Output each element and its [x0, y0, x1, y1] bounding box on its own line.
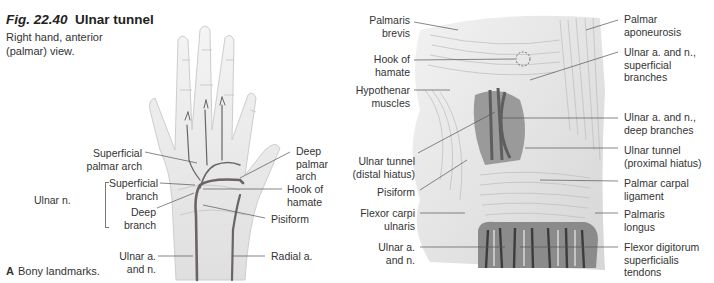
label-deep-palmar-arch: Deep palmar arch — [296, 145, 336, 183]
label-ulnar-a-and-n-b: Ulnar a. and n. — [370, 241, 415, 266]
figure-title-text: Ulnar tunnel — [75, 12, 154, 27]
label-ulnar-deep-branches: Ulnar a. and n., deep branches — [624, 111, 699, 136]
label-superficial-branch: Superficial branch — [104, 177, 158, 202]
label-palmaris-brevis: Palmaris brevis — [352, 14, 410, 39]
panel-a-caption: ABony landmarks. — [6, 265, 100, 277]
label-superficial-palmar-arch: Superficial palmar arch — [80, 147, 142, 172]
label-flexor-carpi-ulnaris: Flexor carpi ulnaris — [352, 207, 415, 232]
caption-text: Bony landmarks. — [18, 265, 100, 277]
figure-subtitle: Right hand, anterior (palmar) view. — [6, 30, 116, 58]
label-ulnar-n: Ulnar n. — [34, 194, 68, 207]
label-radial-a: Radial a. — [271, 250, 312, 263]
label-hypothenar-muscles: Hypothenar muscles — [340, 84, 410, 109]
label-palmaris-longus: Palmaris longus — [624, 208, 679, 233]
figure-number: Fig. 22.40 — [6, 12, 68, 27]
label-flexor-digitorum-superficialis: Flexor digitorum superficialis tendons — [624, 241, 714, 279]
label-palmar-carpal-ligament: Palmar carpal ligament — [624, 177, 694, 202]
label-palmar-aponeurosis: Palmar aponeurosis — [624, 13, 704, 38]
label-ulnar-superficial-branches: Ulnar a. and n., superficial branches — [624, 46, 699, 84]
label-ulnar-tunnel-proximal: Ulnar tunnel (proximal hiatus) — [624, 144, 714, 169]
label-hook-of-hamate-a: Hook of hamate — [287, 183, 335, 208]
caption-letter: A — [6, 265, 14, 277]
label-ulnar-a-and-n-a: Ulnar a. and n. — [110, 250, 156, 275]
label-hook-of-hamate-b: Hook of hamate — [352, 53, 410, 78]
label-deep-branch: Deep branch — [114, 206, 156, 231]
hand-skeleton-illustration — [150, 26, 280, 280]
label-ulnar-tunnel-distal: Ulnar tunnel (distal hiatus) — [340, 155, 415, 180]
figure-title: Fig. 22.40 Ulnar tunnel — [6, 12, 154, 27]
label-pisiform-b: Pisiform — [360, 186, 415, 199]
ulnar-tunnel-dissection-illustration — [413, 16, 606, 270]
label-pisiform-a: Pisiform — [271, 213, 309, 226]
